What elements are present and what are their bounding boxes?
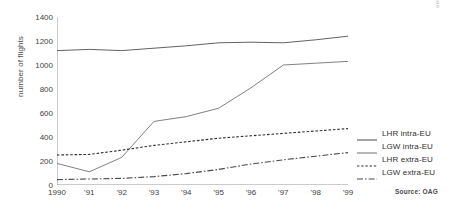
y-tick-label: 1000 bbox=[23, 61, 53, 70]
legend-item-1[interactable]: LGW intra-EU bbox=[357, 140, 459, 153]
y-tick-label: 1200 bbox=[23, 37, 53, 46]
x-tick-label: '97 bbox=[278, 188, 288, 197]
series-lines bbox=[57, 17, 348, 185]
legend-swatch-icon bbox=[357, 143, 377, 151]
x-tick-label: '98 bbox=[310, 188, 320, 197]
x-tick-label: '92 bbox=[116, 188, 126, 197]
series-line-3 bbox=[57, 153, 348, 180]
y-tick-label: 800 bbox=[23, 85, 53, 94]
legend-item-3[interactable]: LGW extra-EU bbox=[357, 166, 459, 179]
series-line-2 bbox=[57, 129, 348, 155]
legend-item-0[interactable]: LHR intra-EU bbox=[357, 127, 459, 140]
legend: LHR intra-EULGW intra-EULHR extra-EULGW … bbox=[357, 127, 459, 179]
chart-figure: number of flights 0200400600800100012001… bbox=[0, 0, 459, 209]
legend-swatch-icon bbox=[357, 156, 377, 164]
x-tick-label: '95 bbox=[213, 188, 223, 197]
legend-label: LHR intra-EU bbox=[382, 129, 431, 138]
y-tick-label: 1400 bbox=[23, 13, 53, 22]
x-axis-tick-labels: 1990'91'92'93'94'95'96'97'98'99 bbox=[57, 188, 348, 202]
watermark-text: aera bbox=[434, 0, 440, 8]
series-line-1 bbox=[57, 61, 348, 171]
y-axis-tick-labels: 0200400600800100012001400 bbox=[19, 17, 53, 185]
y-tick-label: 200 bbox=[23, 157, 53, 166]
x-tick-label: '96 bbox=[246, 188, 256, 197]
legend-swatch-icon bbox=[357, 130, 377, 138]
x-tick-label: 1990 bbox=[48, 188, 66, 197]
plot-area bbox=[57, 17, 348, 185]
y-tick-label: 400 bbox=[23, 133, 53, 142]
x-tick-label: '94 bbox=[181, 188, 191, 197]
legend-swatch-icon bbox=[357, 169, 377, 177]
legend-label: LHR extra-EU bbox=[382, 155, 433, 164]
axis-spines bbox=[57, 17, 348, 185]
x-tick-label: '99 bbox=[343, 188, 353, 197]
x-tick-label: '91 bbox=[84, 188, 94, 197]
legend-label: LGW extra-EU bbox=[382, 168, 435, 177]
legend-label: LGW intra-EU bbox=[382, 142, 433, 151]
y-tick-label: 600 bbox=[23, 109, 53, 118]
series-line-0 bbox=[57, 36, 348, 50]
source-note: Source: OAG bbox=[395, 188, 438, 195]
legend-item-2[interactable]: LHR extra-EU bbox=[357, 153, 459, 166]
x-tick-label: '93 bbox=[149, 188, 159, 197]
